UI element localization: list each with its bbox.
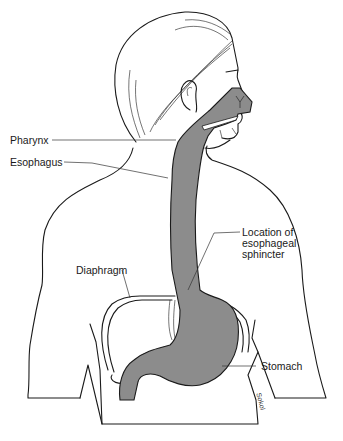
label-sphincter-line3: sphincter [242,248,285,260]
label-diaphragm: Diaphragm [76,264,127,276]
esophagus-leader [64,162,168,178]
label-esophagus: Esophagus [10,156,63,168]
digestive-tract-fill [120,88,252,400]
digestive-tract [120,88,252,400]
anatomy-illustration [0,0,343,441]
label-pharynx: Pharynx [10,134,49,146]
anatomy-diagram: Pharynx Esophagus Location of esophageal… [0,0,343,441]
label-stomach: Stomach [261,360,302,372]
